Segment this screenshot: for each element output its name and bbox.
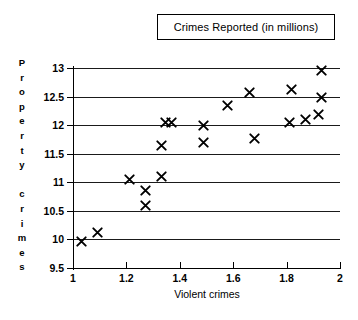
- x-tick-label: 1.8: [272, 272, 302, 284]
- y-caption-letter: o: [19, 85, 25, 100]
- y-caption-letter: c: [19, 187, 24, 202]
- x-tick-label: 2: [325, 272, 355, 284]
- data-points-layer: [73, 68, 340, 268]
- data-point-marker: [286, 84, 297, 95]
- y-caption-letter: e: [19, 246, 24, 261]
- y-tick-label: 12.5: [30, 91, 64, 103]
- y-tick-label: 11: [30, 176, 64, 188]
- x-tick-label: 1.2: [111, 272, 141, 284]
- x-tick-mark: [340, 262, 341, 269]
- data-point-marker: [284, 117, 295, 128]
- x-tick-label: 1.4: [165, 272, 195, 284]
- data-point-marker: [316, 65, 327, 76]
- data-point-marker: [300, 114, 311, 125]
- data-point-marker: [198, 120, 209, 131]
- y-caption-letter: e: [19, 114, 24, 129]
- data-point-marker: [313, 109, 324, 120]
- y-caption-letter: s: [19, 260, 24, 275]
- data-point-marker: [156, 171, 167, 182]
- chart-root: Crimes Reported (in millions) Property.c…: [0, 0, 358, 320]
- y-axis-caption: Property.crimes: [14, 56, 30, 275]
- data-point-marker: [222, 100, 233, 111]
- chart-title-box: Crimes Reported (in millions): [157, 14, 335, 40]
- chart-title-text: Crimes Reported (in millions): [174, 21, 319, 33]
- data-point-marker: [198, 137, 209, 148]
- y-tick-label: 11.5: [30, 148, 64, 160]
- data-point-marker: [160, 117, 171, 128]
- data-point-marker: [92, 227, 103, 238]
- y-caption-letter: P: [19, 56, 25, 71]
- y-tick-label: 10.5: [30, 205, 64, 217]
- y-caption-letter: r: [20, 202, 24, 217]
- data-point-marker: [124, 174, 135, 185]
- x-axis-title: Violent crimes: [73, 288, 341, 300]
- x-tick-label: 1.6: [218, 272, 248, 284]
- data-point-marker: [244, 87, 255, 98]
- y-caption-letter: r: [20, 129, 24, 144]
- y-caption-letter: p: [19, 100, 25, 115]
- data-point-marker: [316, 92, 327, 103]
- y-tick-label: 12: [30, 119, 64, 131]
- y-caption-letter: r: [20, 71, 24, 86]
- data-point-marker: [249, 133, 260, 144]
- y-caption-letter: y: [19, 158, 24, 173]
- y-caption-letter: t: [20, 144, 23, 159]
- x-axis-line: [73, 268, 341, 269]
- x-tick-label: 1: [58, 272, 88, 284]
- data-point-marker: [76, 236, 87, 247]
- y-caption-letter: m: [18, 231, 26, 246]
- data-point-marker: [166, 117, 177, 128]
- data-point-marker: [156, 140, 167, 151]
- data-point-marker: [140, 185, 151, 196]
- data-point-marker: [140, 200, 151, 211]
- y-caption-letter: i: [21, 217, 24, 232]
- y-tick-label: 13: [30, 62, 64, 74]
- y-tick-label: 10: [30, 233, 64, 245]
